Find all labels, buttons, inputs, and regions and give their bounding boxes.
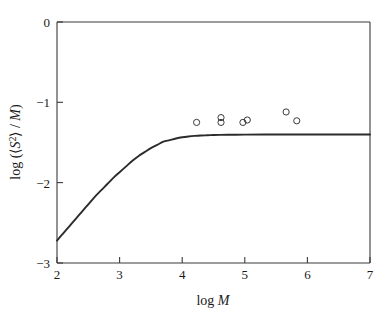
x-tick-label-3: 3 (116, 267, 123, 282)
x-tick-label-4: 4 (179, 267, 186, 282)
data-point-marker (283, 109, 289, 115)
y-tick-label-minus1: −1 (36, 95, 50, 110)
y-axis-title: log (⟨S2⟩ / M) (7, 104, 24, 180)
series-theoretical-curve (57, 134, 370, 240)
x-tick-label-2: 2 (54, 267, 61, 282)
y-tick-labels: 0 −1 −2 −3 (36, 15, 50, 271)
y-tick-label-minus3: −3 (36, 256, 50, 271)
theoretical-curve-path (57, 134, 370, 240)
data-point-marker (294, 118, 300, 124)
y-axis-ticks (57, 22, 63, 263)
plot-frame (57, 22, 370, 263)
x-axis-title: log M (196, 293, 230, 308)
x-axis-ticks (57, 257, 370, 263)
y-tick-label-0: 0 (44, 15, 51, 30)
y-tick-label-minus2: −2 (36, 176, 50, 191)
chart-figure: 2 3 4 5 6 7 0 −1 −2 −3 log M log (⟨S2⟩ /… (0, 0, 386, 315)
data-point-marker (194, 119, 200, 125)
x-tick-label-7: 7 (367, 267, 374, 282)
x-tick-labels: 2 3 4 5 6 7 (54, 267, 374, 282)
chart-canvas: 2 3 4 5 6 7 0 −1 −2 −3 log M log (⟨S2⟩ /… (0, 0, 386, 315)
x-tick-label-6: 6 (304, 267, 311, 282)
x-tick-label-5: 5 (242, 267, 249, 282)
series-experimental-data (194, 109, 300, 126)
